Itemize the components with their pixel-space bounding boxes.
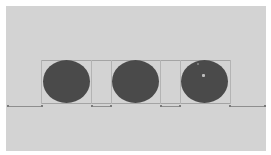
tick-mark [179,105,181,107]
guide-sep-1 [91,60,92,104]
tick-mark [91,105,93,107]
guide-left [41,60,42,104]
circle-shape-3[interactable] [181,60,228,103]
rotation-handle-icon[interactable] [197,63,199,65]
baseline-segment-3 [161,106,180,107]
tick-mark [110,105,112,107]
baseline-segment-2 [92,106,111,107]
tick-mark [7,105,9,107]
circle-shape-1[interactable] [43,60,90,103]
tick-mark [229,105,231,107]
guide-right [230,60,231,104]
tick-mark [41,105,43,107]
tick-mark [264,105,266,107]
tick-mark [160,105,162,107]
guide-bottom [41,103,231,104]
baseline-segment-1 [7,106,42,107]
baseline-segment-4 [230,106,265,107]
center-handle-icon[interactable] [202,74,205,77]
circle-shape-2[interactable] [112,60,159,103]
guide-sep-3 [160,60,161,104]
